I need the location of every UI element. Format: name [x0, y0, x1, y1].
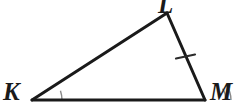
vertex-label-k: K: [3, 79, 20, 104]
vertex-label-l: L: [158, 0, 173, 17]
triangle-diagram-canvas: [0, 0, 242, 107]
geometry-figure-triangle-klm: K L M: [0, 0, 242, 107]
side-kl: [32, 13, 167, 100]
vertex-label-m: M: [210, 79, 232, 104]
